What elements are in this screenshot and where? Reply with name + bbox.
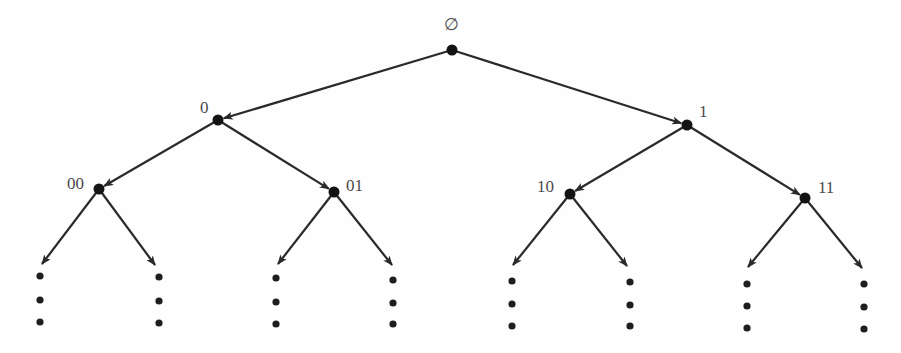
binary-tree-diagram: ∅0100011011: [0, 0, 901, 353]
leaf-edges: [42, 189, 862, 268]
node-labels: ∅0100011011: [67, 15, 834, 197]
leaf-edge-n01-2: [278, 192, 334, 264]
tree-node-n0: [213, 115, 224, 126]
leaf-edge-n10-5: [570, 194, 627, 266]
continuation-ellipses: [36, 272, 867, 332]
vertical-ellipsis-icon: [36, 272, 43, 325]
tree-node-n1: [682, 120, 693, 131]
tree-node-n10: [565, 189, 576, 200]
edge-n0-to-n01: [218, 120, 329, 189]
leaf-edge-n00-1: [99, 189, 155, 265]
node-label-n00: 00: [67, 174, 84, 193]
edge-n1-to-n11: [687, 125, 800, 195]
node-label-n10: 10: [537, 177, 554, 196]
vertical-ellipsis-icon: [860, 280, 867, 332]
vertical-ellipsis-icon: [743, 280, 750, 331]
node-label-n01: 01: [346, 176, 363, 195]
edge-root-to-n0: [224, 50, 452, 118]
node-label-n0: 0: [200, 98, 209, 117]
edge-n1-to-n10: [575, 125, 687, 191]
leaf-edge-n01-3: [334, 192, 392, 265]
vertical-ellipsis-icon: [508, 277, 515, 329]
leaf-edge-n10-4: [513, 194, 570, 265]
node-label-root: ∅: [444, 15, 459, 34]
vertical-ellipsis-icon: [272, 274, 279, 327]
tree-edges: [104, 50, 800, 195]
vertical-ellipsis-icon: [155, 273, 162, 326]
tree-nodes: [94, 45, 811, 204]
node-label-n1: 1: [699, 102, 708, 121]
leaf-edge-n11-6: [748, 198, 805, 267]
tree-node-root: [447, 45, 458, 56]
vertical-ellipsis-icon: [389, 276, 396, 327]
tree-node-n00: [94, 184, 105, 195]
edge-n0-to-n00: [104, 120, 218, 186]
vertical-ellipsis-icon: [626, 278, 633, 329]
tree-node-n01: [329, 187, 340, 198]
edge-root-to-n1: [452, 50, 681, 123]
leaf-edge-n00-0: [42, 189, 99, 264]
tree-node-n11: [800, 193, 811, 204]
node-label-n11: 11: [818, 178, 834, 197]
leaf-edge-n11-7: [805, 198, 862, 268]
